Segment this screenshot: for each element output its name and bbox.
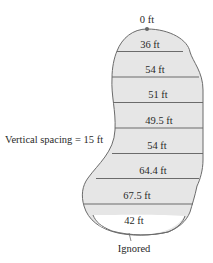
pond-cross-section-diagram: 0 ft 36 ft 54 ft 51 ft 49.5 ft 54 ft 64.… [0,0,213,263]
width-label-3: 51 ft [148,89,168,100]
vertical-spacing-label: Vertical spacing = 15 ft [5,134,103,145]
width-label-5: 54 ft [147,140,167,151]
width-label-2: 54 ft [145,64,165,75]
width-label-4: 49.5 ft [145,115,172,126]
width-label-8: 42 ft [124,215,144,226]
width-label-7: 67.5 ft [123,190,150,201]
top-point-dot [145,27,149,31]
ignored-label: Ignored [118,243,151,254]
width-label-1: 36 ft [140,39,160,50]
top-label: 0 ft [140,14,154,25]
width-label-6: 64.4 ft [139,165,166,176]
